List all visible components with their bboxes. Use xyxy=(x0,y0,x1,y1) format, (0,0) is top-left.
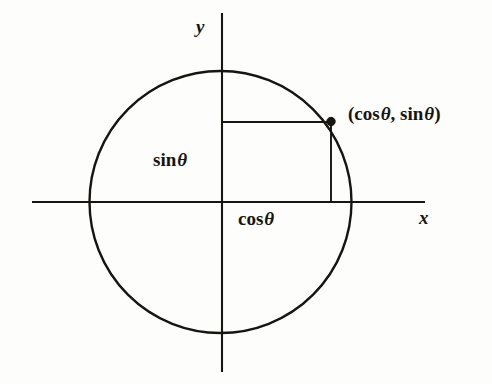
coords-open-paren-cos: (cos xyxy=(348,103,380,124)
point-marker-dot xyxy=(327,117,335,125)
unit-circle-drawing xyxy=(0,0,492,384)
unit-circle-figure: y x sinθ cosθ (cosθ, sinθ) xyxy=(0,0,492,384)
theta-symbol-sin: θ xyxy=(423,103,434,124)
theta-symbol: θ xyxy=(176,149,187,170)
theta-symbol: θ xyxy=(263,208,274,229)
point-coordinates-label: (cosθ, sinθ) xyxy=(348,104,440,123)
coords-comma-sin: , sin xyxy=(391,103,424,124)
coords-close-paren: ) xyxy=(434,103,440,124)
sin-theta-label: sinθ xyxy=(153,150,187,169)
sin-text: sin xyxy=(153,149,176,170)
cos-text: cos xyxy=(238,208,263,229)
y-axis-label: y xyxy=(196,17,204,36)
cos-theta-label: cosθ xyxy=(238,209,274,228)
theta-symbol-cos: θ xyxy=(380,103,391,124)
x-axis-label: x xyxy=(419,208,429,227)
